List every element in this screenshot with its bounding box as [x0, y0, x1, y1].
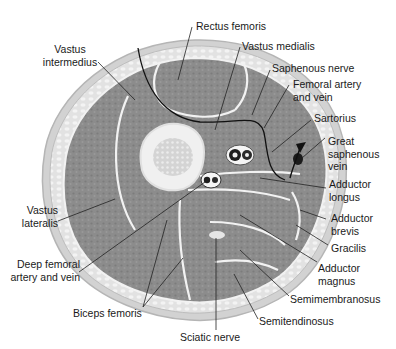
label-femoral-artery-vein: Femoral artery and vein	[293, 78, 361, 103]
label-biceps-femoris: Biceps femoris	[73, 307, 142, 320]
label-semitendinosus: Semitendinosus	[259, 315, 334, 328]
femoral-vessels	[226, 145, 254, 165]
label-vastus-intermedius: Vastus intermedius	[40, 43, 100, 68]
label-semimembranosus: Semimembranosus	[290, 293, 380, 306]
label-vastus-medialis: Vastus medialis	[242, 40, 315, 53]
label-deep-femoral-artery-vein: Deep femoral artery and vein	[4, 258, 80, 283]
deep-femoral-vessels	[201, 172, 221, 188]
label-sartorius: Sartorius	[314, 112, 356, 125]
thigh-cross-section-diagram: Rectus femoris Vastus intermedius Vastus…	[0, 0, 396, 349]
label-rectus-femoris: Rectus femoris	[196, 20, 266, 33]
label-adductor-magnus: Adductor magnus	[318, 262, 360, 287]
label-adductor-brevis: Adductor brevis	[331, 212, 373, 237]
femur-bone	[141, 124, 205, 191]
label-sciatic-nerve: Sciatic nerve	[180, 331, 240, 344]
label-saphenous-nerve: Saphenous nerve	[272, 62, 354, 75]
sciatic-nerve-shape	[209, 231, 225, 239]
label-adductor-longus: Adductor longus	[329, 178, 371, 203]
label-great-saphenous-vein: Great saphenous vein	[328, 135, 379, 173]
label-vastus-lateralis: Vastus lateralis	[4, 204, 58, 229]
label-gracilis: Gracilis	[331, 242, 366, 255]
